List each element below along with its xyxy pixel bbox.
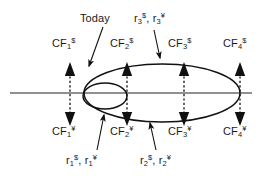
cash-flow-arrow-1: [65, 62, 75, 126]
cashflow-yen-4: CF4¥: [223, 126, 246, 137]
r1-separator: , r: [78, 154, 88, 166]
cf1-yen-base: CF: [52, 125, 67, 137]
r1-superscript-dollar: $: [74, 153, 78, 162]
cashflow-yen-1: CF1¥: [52, 126, 75, 137]
cf3-yen-currency: ¥: [187, 124, 191, 133]
today-label: Today: [80, 13, 110, 24]
cash-flow-arrow-2: [122, 62, 132, 126]
cf1-yen-currency: ¥: [71, 124, 75, 133]
cashflow-dollar-4: CF4$: [223, 38, 246, 49]
cf2-yen-currency: ¥: [129, 124, 133, 133]
cf3-dollar-currency: $: [187, 36, 191, 45]
r3-separator: , r: [146, 12, 156, 24]
r1-leader-line: [97, 115, 104, 150]
cf3-dollar-base: CF: [168, 37, 183, 49]
r3-leader-line: [154, 30, 160, 58]
cf2-yen-base: CF: [110, 125, 125, 137]
swap-loop-small-ellipse: [83, 83, 127, 109]
cf4-yen-base: CF: [223, 125, 238, 137]
r2-superscript-yen: ¥: [167, 153, 171, 162]
r2-separator: , r: [152, 154, 162, 166]
cf3-yen-base: CF: [168, 125, 183, 137]
cf4-yen-currency: ¥: [242, 124, 246, 133]
cashflow-dollar-1: CF1$: [52, 38, 75, 49]
cash-flow-diagram: [0, 0, 262, 180]
cashflow-yen-2: CF2¥: [110, 126, 133, 137]
cf1-dollar-base: CF: [52, 37, 67, 49]
cash-flow-arrow-3: [179, 62, 189, 126]
today-leader-line: [89, 27, 103, 66]
r2-rates-label: r2$, r2¥: [140, 155, 171, 166]
r1-superscript-yen: ¥: [93, 153, 97, 162]
cf4-dollar-base: CF: [223, 37, 238, 49]
cf1-dollar-currency: $: [71, 36, 75, 45]
r3-rates-label: r3$, r3¥: [134, 13, 165, 24]
r1-rates-label: r1$, r1¥: [66, 155, 97, 166]
figure-canvas: Today r3$, r3¥ CF1$ CF2$ CF3$ CF4$ CF1¥ …: [0, 0, 262, 180]
r3-superscript-yen: ¥: [161, 11, 165, 20]
cf4-dollar-currency: $: [242, 36, 246, 45]
r2-leader-line: [150, 123, 156, 150]
cashflow-dollar-3: CF3$: [168, 38, 191, 49]
r3-superscript-dollar: $: [142, 11, 146, 20]
cash-flow-arrow-4: [235, 62, 245, 126]
cashflow-yen-3: CF3¥: [168, 126, 191, 137]
cashflow-dollar-2: CF2$: [110, 38, 133, 49]
cf2-dollar-base: CF: [110, 37, 125, 49]
cf2-dollar-currency: $: [129, 36, 133, 45]
r2-superscript-dollar: $: [148, 153, 152, 162]
